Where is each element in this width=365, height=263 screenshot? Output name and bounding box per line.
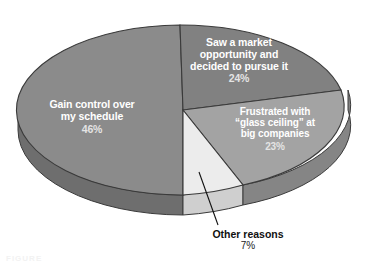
pie-chart-figure: Saw a market opportunity and decided to … [0, 0, 365, 263]
pie-chart-graphic [0, 0, 365, 263]
